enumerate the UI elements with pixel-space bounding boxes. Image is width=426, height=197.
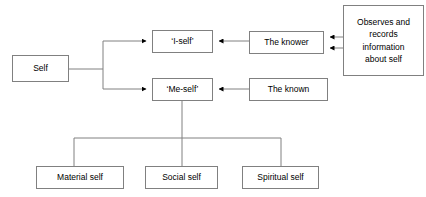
node-social-self[interactable]: Social self xyxy=(145,166,218,189)
node-the-knower[interactable]: The knower xyxy=(249,31,324,54)
node-the-known[interactable]: The known xyxy=(249,78,328,101)
node-i-self[interactable]: ‘I-self’ xyxy=(152,30,213,53)
node-self[interactable]: Self xyxy=(12,55,69,82)
node-observes-records[interactable]: Observes and records information about s… xyxy=(343,5,424,76)
node-material-self[interactable]: Material self xyxy=(36,166,124,189)
node-me-self[interactable]: ‘Me-self’ xyxy=(152,78,213,101)
diagram-canvas: Self ‘I-self’ ‘Me-self’ The knower The k… xyxy=(0,0,426,197)
node-spiritual-self[interactable]: Spiritual self xyxy=(242,166,319,189)
